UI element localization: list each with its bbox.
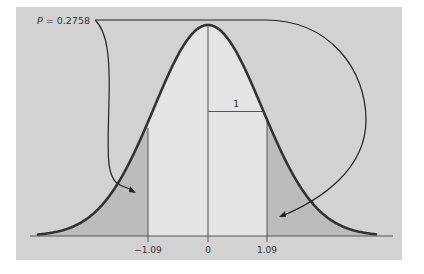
tick-label-pos: 1.09 (257, 245, 277, 255)
sd-width-label: 1 (233, 99, 239, 109)
normal-distribution-figure: 1 P = 0.2758 −1.09 0 1.09 (0, 0, 424, 274)
p-value: = 0.2758 (43, 15, 90, 26)
tick-label-neg: −1.09 (134, 245, 162, 255)
tick-label-zero: 0 (205, 245, 211, 255)
p-value-label: P = 0.2758 (37, 15, 90, 26)
